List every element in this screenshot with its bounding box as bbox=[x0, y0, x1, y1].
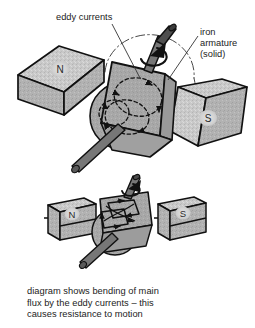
magnet-north-label-lower: N bbox=[69, 209, 76, 220]
figure-caption: diagram shows bending of main flux by th… bbox=[27, 286, 232, 321]
caption-line-3: causes resistance to motion bbox=[27, 309, 232, 321]
label-iron-armature-line1: iron bbox=[200, 27, 237, 38]
label-eddy-currents: eddy currents bbox=[56, 12, 112, 23]
magnet-south-label-upper: S bbox=[205, 113, 212, 124]
label-iron-armature: iron armature (solid) bbox=[200, 27, 237, 59]
magnet-north-lower: N bbox=[48, 198, 96, 240]
label-iron-armature-line2: armature bbox=[200, 38, 237, 49]
caption-line-2: flux by the eddy currents – this bbox=[27, 298, 232, 310]
magnet-south-lower: S bbox=[158, 197, 206, 240]
lower-diagram: N S bbox=[44, 173, 206, 269]
magnet-north-upper: N bbox=[18, 46, 104, 115]
leader-line-iron-armature bbox=[168, 36, 198, 80]
caption-line-1: diagram shows bending of main bbox=[27, 286, 232, 298]
label-iron-armature-line3: (solid) bbox=[200, 49, 237, 60]
magnet-south-upper: S bbox=[170, 79, 247, 146]
magnet-south-label-lower: S bbox=[180, 208, 186, 219]
magnet-north-label-upper: N bbox=[56, 64, 63, 75]
